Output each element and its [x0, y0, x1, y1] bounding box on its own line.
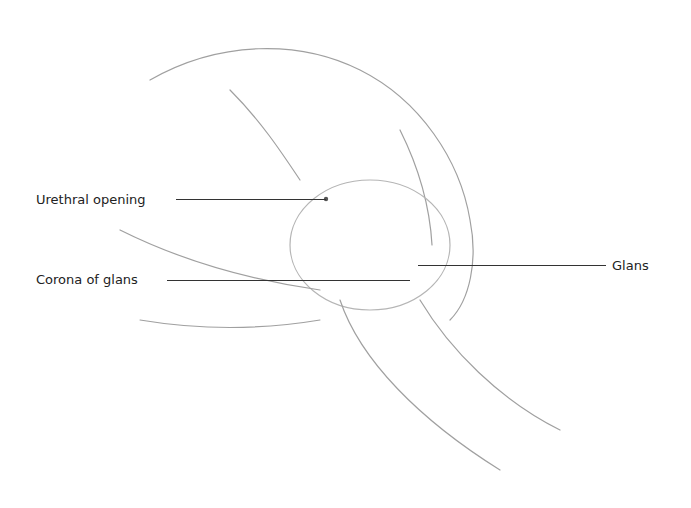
anatomical-sketch: [0, 0, 691, 508]
diagram-canvas: Urethral opening Corona of glans Glans: [0, 0, 691, 508]
label-glans: Glans: [612, 258, 649, 273]
leader-line-glans: [418, 265, 606, 266]
label-urethral-opening: Urethral opening: [36, 192, 146, 207]
label-corona-of-glans: Corona of glans: [36, 272, 138, 287]
leader-line-urethral-opening: [176, 199, 326, 200]
leader-line-corona-of-glans: [167, 280, 410, 281]
